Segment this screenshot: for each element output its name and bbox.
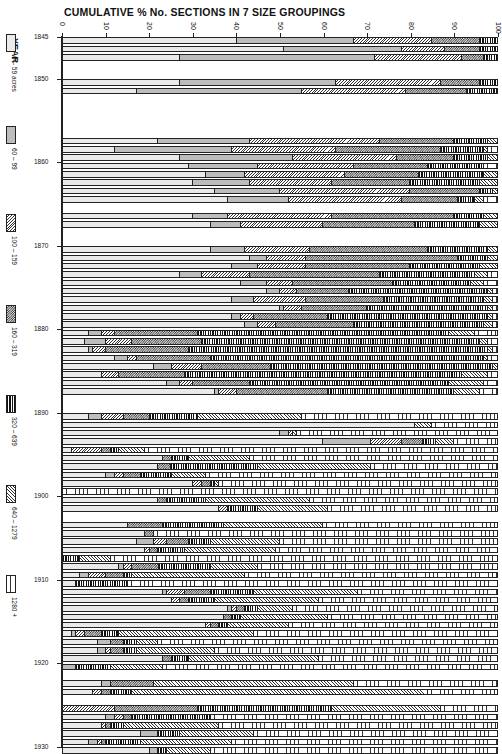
bar-segment xyxy=(119,372,184,377)
bar-segment xyxy=(293,281,393,286)
bar-segment xyxy=(132,339,201,344)
bar-row xyxy=(62,714,498,721)
bar-segment xyxy=(137,648,215,653)
bar-segment xyxy=(250,272,380,277)
bar-segment xyxy=(141,473,171,478)
bar-segment xyxy=(488,247,497,252)
bar-segment xyxy=(132,715,210,720)
bar-segment xyxy=(63,297,232,302)
bar-segment xyxy=(250,256,267,261)
bar-segment xyxy=(63,164,189,169)
bar-segment xyxy=(63,347,89,352)
bar-segment xyxy=(63,289,267,294)
bar-segment xyxy=(475,272,488,277)
bar-row xyxy=(62,54,498,61)
bar-segment xyxy=(150,548,159,553)
bar-segment xyxy=(445,47,480,52)
bar-row xyxy=(62,280,498,287)
bar-segment xyxy=(245,573,497,578)
bar-row xyxy=(62,472,498,479)
bar-segment xyxy=(63,356,115,361)
bar-segment xyxy=(280,189,410,194)
bar-segment xyxy=(167,748,210,753)
bar-segment xyxy=(167,498,206,503)
bar-segment xyxy=(454,155,489,160)
bar-row xyxy=(62,630,498,637)
bar-segment xyxy=(493,297,497,302)
bar-segment xyxy=(428,164,484,169)
bar-segment xyxy=(258,322,275,327)
bar-row xyxy=(62,505,498,512)
bar-segment xyxy=(454,214,484,219)
bar-segment xyxy=(172,656,189,661)
bar-segment xyxy=(198,414,302,419)
bar-segment xyxy=(297,431,497,436)
bar-row xyxy=(62,330,498,337)
bar-segment xyxy=(102,414,124,419)
bar-segment xyxy=(480,47,497,52)
bar-row xyxy=(62,522,498,529)
bar-segment xyxy=(189,164,258,169)
bar-segment xyxy=(180,272,202,277)
bar-segment xyxy=(410,180,479,185)
bar-segment xyxy=(254,297,306,302)
bar-segment xyxy=(63,606,228,611)
bar-segment xyxy=(488,339,497,344)
bar-segment xyxy=(102,331,115,336)
bar-row xyxy=(62,622,498,629)
bar-segment xyxy=(336,147,440,152)
bar-row xyxy=(62,338,498,345)
bar-segment xyxy=(332,706,441,711)
bar-segment xyxy=(332,180,410,185)
bar-segment xyxy=(211,539,280,544)
bar-segment xyxy=(232,314,241,319)
bar-segment xyxy=(154,364,171,369)
bar-segment xyxy=(102,448,111,453)
bar-segment xyxy=(115,715,124,720)
bar-segment xyxy=(89,740,98,745)
bar-segment xyxy=(128,581,497,586)
bar-segment xyxy=(63,322,245,327)
bar-segment xyxy=(224,615,233,620)
bar-segment xyxy=(124,414,150,419)
bar-segment xyxy=(172,598,181,603)
bar-segment xyxy=(484,322,493,327)
bar-segment xyxy=(488,256,497,261)
bar-row xyxy=(62,589,498,596)
bar-segment xyxy=(349,289,488,294)
bar-segment xyxy=(302,89,406,94)
bar-segment xyxy=(375,55,462,60)
bar-segment xyxy=(189,539,211,544)
bar-segment xyxy=(63,715,106,720)
bar-segment xyxy=(63,222,211,227)
bar-segment xyxy=(323,439,371,444)
bar-segment xyxy=(241,222,323,227)
bar-segment xyxy=(124,640,137,645)
bar-row xyxy=(62,497,498,504)
bar-segment xyxy=(76,631,85,636)
bar-segment xyxy=(402,439,424,444)
bar-segment xyxy=(302,306,367,311)
bar-segment xyxy=(488,155,497,160)
bar-segment xyxy=(63,598,172,603)
bar-segment xyxy=(80,556,110,561)
bar-segment xyxy=(163,656,172,661)
bar-segment xyxy=(63,38,237,43)
bar-row xyxy=(62,79,498,86)
bar-segment xyxy=(76,581,128,586)
bar-segment xyxy=(119,631,254,636)
bar-segment xyxy=(267,289,280,294)
bar-segment xyxy=(276,322,354,327)
bar-segment xyxy=(63,548,145,553)
bar-segment xyxy=(115,331,197,336)
bar-row xyxy=(62,271,498,278)
bar-segment xyxy=(232,615,241,620)
bar-segment xyxy=(158,748,167,753)
bar-segment xyxy=(124,573,133,578)
bar-segment xyxy=(106,740,141,745)
bar-row xyxy=(62,739,498,746)
bar-segment xyxy=(384,297,484,302)
bar-row xyxy=(62,179,498,186)
bar-row xyxy=(62,88,498,95)
bar-row xyxy=(62,305,498,312)
